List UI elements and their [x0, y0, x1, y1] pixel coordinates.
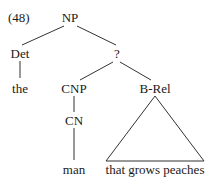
edge-np-det — [22, 26, 64, 45]
leaf-man: man — [63, 163, 85, 176]
example-number: (48) — [8, 11, 30, 24]
leaf-relative-clause: that grows peaches — [106, 163, 205, 176]
node-brel: B-Rel — [139, 82, 170, 95]
node-cn: CN — [65, 114, 83, 127]
node-cnp: CNP — [61, 82, 86, 95]
edge-q-brel — [120, 62, 151, 80]
node-question: ? — [114, 47, 120, 60]
leaf-the: the — [12, 82, 28, 95]
tree-edges — [0, 0, 214, 188]
edge-q-cnp — [80, 62, 113, 80]
triangle-brel — [106, 96, 204, 161]
edge-np-q — [77, 26, 116, 45]
node-np: NP — [62, 11, 79, 24]
node-det: Det — [11, 47, 30, 60]
